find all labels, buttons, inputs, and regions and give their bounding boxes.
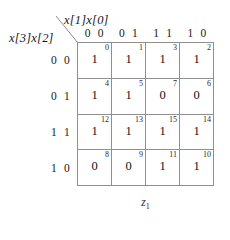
cell-value: 1: [78, 124, 111, 138]
cell-value: 1: [146, 159, 179, 173]
column-header-row: 0 0 0 1 1 1 1 0: [77, 26, 214, 41]
cell-value: 1: [112, 52, 145, 66]
column-header-1: 0 1: [111, 26, 145, 41]
column-header-0: 0 0: [77, 26, 111, 41]
kmap-cell: 14 1: [180, 115, 214, 151]
row-header-0: 0 0: [30, 42, 75, 78]
cell-value: 1: [180, 52, 213, 66]
row-header-1: 0 1: [30, 78, 75, 114]
kmap-cell: 7 0: [146, 79, 180, 115]
kmap-row: 0 1 1 1 3 1 2 1: [78, 43, 214, 79]
kmap-cell: 0 1: [78, 43, 112, 79]
cell-value: 1: [112, 124, 145, 138]
kmap-cell: 6 0: [180, 79, 214, 115]
cell-value: 1: [112, 88, 145, 102]
cell-value: 1: [78, 88, 111, 102]
kmap-cell: 3 1: [146, 43, 180, 79]
caption-subscript: 1: [146, 202, 150, 211]
cell-value: 1: [180, 124, 213, 138]
kmap-cell: 4 1: [78, 79, 112, 115]
kmap-cell: 10 1: [180, 150, 214, 186]
column-header-3: 1 0: [180, 26, 214, 41]
kmap-cell: 9 0: [112, 150, 146, 186]
cell-value: 1: [146, 52, 179, 66]
kmap-row: 8 0 9 0 11 1 10 1: [78, 150, 214, 186]
cell-value: 0: [146, 88, 179, 102]
kmap-cell: 8 0: [78, 150, 112, 186]
cell-value: 1: [180, 159, 213, 173]
kmap-caption: z1: [77, 196, 214, 211]
cell-value: 1: [146, 124, 179, 138]
kmap-row: 12 1 13 1 15 1 14 1: [78, 115, 214, 151]
kmap-cell: 12 1: [78, 115, 112, 151]
kmap-cell: 15 1: [146, 115, 180, 151]
row-header-3: 1 0: [30, 150, 75, 186]
cell-value: 1: [78, 52, 111, 66]
cell-value: 0: [180, 88, 213, 102]
column-header-2: 1 1: [146, 26, 180, 41]
row-header-2: 1 1: [30, 114, 75, 150]
row-header-column: 0 0 0 1 1 1 1 0: [30, 42, 75, 186]
cell-value: 0: [112, 159, 145, 173]
kmap-cell: 2 1: [180, 43, 214, 79]
kmap-cell: 13 1: [112, 115, 146, 151]
kmap-cell: 5 1: [112, 79, 146, 115]
kmap-cell: 1 1: [112, 43, 146, 79]
kmap-cell: 11 1: [146, 150, 180, 186]
karnaugh-map-grid: 0 1 1 1 3 1 2 1 4 1 5 1 7 0 6 0: [77, 42, 214, 186]
cell-value: 0: [78, 159, 111, 173]
kmap-row: 4 1 5 1 7 0 6 0: [78, 79, 214, 115]
